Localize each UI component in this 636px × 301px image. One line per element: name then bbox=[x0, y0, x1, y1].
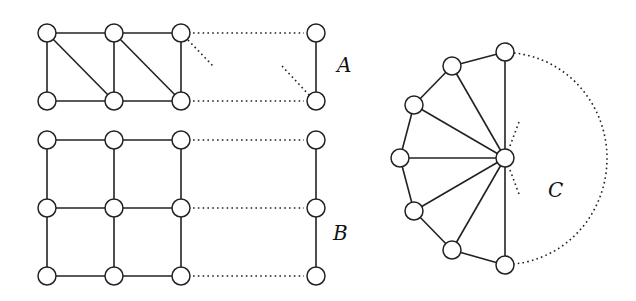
vertex-a8 bbox=[307, 92, 325, 110]
vertex-b12 bbox=[307, 267, 325, 285]
vertex-a1 bbox=[38, 24, 56, 42]
dotted-stub-a bbox=[188, 40, 213, 66]
vertex-hub bbox=[496, 149, 514, 167]
edge-a bbox=[47, 33, 114, 101]
graph-diagram: A B C bbox=[0, 0, 636, 301]
dotted-arc-c bbox=[514, 53, 607, 264]
labels-layer: A B C bbox=[332, 53, 563, 245]
vertex-a6 bbox=[105, 92, 123, 110]
graph-label-a: A bbox=[335, 53, 351, 77]
vertex-c5 bbox=[405, 202, 423, 220]
edge-c bbox=[452, 66, 505, 158]
vertex-b5 bbox=[38, 199, 56, 217]
vertex-c3 bbox=[405, 96, 423, 114]
vertex-b3 bbox=[172, 131, 190, 149]
graph-label-c: C bbox=[548, 178, 563, 202]
edge-c bbox=[414, 105, 505, 158]
vertex-b8 bbox=[307, 199, 325, 217]
vertex-a2 bbox=[105, 24, 123, 42]
vertex-c4 bbox=[391, 149, 409, 167]
graph-label-b: B bbox=[332, 221, 348, 245]
vertex-c1 bbox=[496, 43, 514, 61]
edge-c bbox=[452, 158, 505, 250]
vertex-c7 bbox=[496, 256, 514, 274]
vertex-b9 bbox=[38, 267, 56, 285]
vertex-a5 bbox=[38, 92, 56, 110]
vertex-b2 bbox=[105, 131, 123, 149]
vertex-a3 bbox=[172, 24, 190, 42]
vertex-a7 bbox=[172, 92, 190, 110]
vertex-b10 bbox=[105, 267, 123, 285]
vertex-b1 bbox=[38, 131, 56, 149]
dotted-stub-c bbox=[510, 122, 519, 146]
edges-layer bbox=[47, 33, 505, 276]
vertex-b6 bbox=[105, 199, 123, 217]
dotted-stub-c bbox=[510, 170, 519, 194]
edge-c bbox=[414, 158, 505, 211]
vertex-c6 bbox=[443, 241, 461, 259]
dotted-stub-a bbox=[282, 66, 309, 95]
vertex-c2 bbox=[443, 57, 461, 75]
edge-a bbox=[114, 33, 181, 101]
nodes-layer bbox=[38, 24, 514, 285]
vertex-b11 bbox=[172, 267, 190, 285]
vertex-b4 bbox=[307, 131, 325, 149]
vertex-a4 bbox=[307, 24, 325, 42]
vertex-b7 bbox=[172, 199, 190, 217]
